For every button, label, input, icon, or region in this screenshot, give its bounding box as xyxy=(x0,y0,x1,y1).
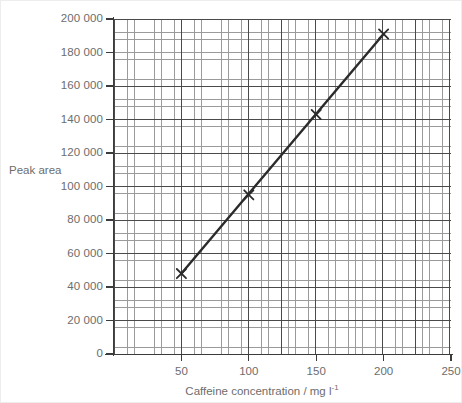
y-tick-mark xyxy=(106,18,114,19)
y-tick-label-wrap: 40 000 xyxy=(1,280,103,294)
y-tick-label-wrap: 160 000 xyxy=(1,79,103,93)
x-axis-title-text: Caffeine concentration / mg l xyxy=(185,385,331,397)
y-tick-label: 100 000 xyxy=(3,180,103,192)
chart-figure: 020 00040 00060 00080 000100 000120 0001… xyxy=(0,0,462,403)
y-axis-title: Peak area xyxy=(9,164,61,176)
x-tick-label: 200 xyxy=(354,365,414,377)
x-axis-title-exponent: -1 xyxy=(332,383,339,392)
y-tick-label-wrap: 140 000 xyxy=(1,113,103,127)
y-tick-mark xyxy=(106,85,114,86)
y-tick-label: 120 000 xyxy=(3,146,103,158)
x-tick-mark xyxy=(450,354,451,361)
y-tick-label-wrap: 120 000 xyxy=(1,146,103,160)
y-tick-label: 160 000 xyxy=(3,79,103,91)
y-tick-label-wrap: 0 xyxy=(1,347,103,361)
y-tick-label: 200 000 xyxy=(3,12,103,24)
y-tick-label: 140 000 xyxy=(3,113,103,125)
x-tick-mark xyxy=(181,354,182,361)
y-tick-label-wrap: 180 000 xyxy=(1,46,103,60)
y-tick-label: 20 000 xyxy=(3,314,103,326)
x-tick-label: 250 xyxy=(421,365,462,377)
y-tick-mark xyxy=(106,152,114,153)
y-tick-label: 180 000 xyxy=(3,46,103,58)
y-tick-mark xyxy=(106,253,114,254)
x-tick-mark xyxy=(248,354,249,361)
y-tick-mark xyxy=(106,119,114,120)
y-tick-mark xyxy=(106,186,114,187)
y-tick-label-wrap: 200 000 xyxy=(1,12,103,26)
y-tick-label: 80 000 xyxy=(3,213,103,225)
y-tick-mark xyxy=(106,353,114,354)
x-tick-mark xyxy=(383,354,384,361)
y-tick-label-wrap: 80 000 xyxy=(1,213,103,227)
x-axis-title: Caffeine concentration / mg l-1 xyxy=(1,383,462,397)
x-axis-line xyxy=(105,354,453,355)
y-tick-label-wrap: 100 000 xyxy=(1,180,103,194)
x-tick-mark xyxy=(316,354,317,361)
y-tick-label: 40 000 xyxy=(3,280,103,292)
y-tick-mark xyxy=(106,219,114,220)
plot-area xyxy=(114,19,451,354)
y-tick-label-wrap: 20 000 xyxy=(1,314,103,328)
y-tick-mark xyxy=(106,52,114,53)
y-tick-label: 0 xyxy=(3,347,103,359)
grid-major-lines xyxy=(114,19,451,354)
y-tick-label-wrap: 60 000 xyxy=(1,247,103,261)
y-tick-mark xyxy=(106,286,114,287)
x-tick-label: 100 xyxy=(219,365,279,377)
y-tick-label: 60 000 xyxy=(3,247,103,259)
x-tick-label: 50 xyxy=(151,365,211,377)
x-tick-label: 150 xyxy=(286,365,346,377)
y-tick-mark xyxy=(106,320,114,321)
